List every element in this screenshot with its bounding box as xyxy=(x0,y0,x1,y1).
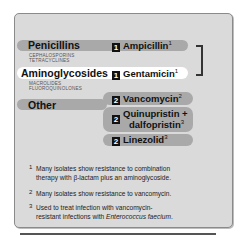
footnote-text: Many isolates show resistance to combina… xyxy=(36,165,171,174)
footnote-text: Used to treat infection with vancomycin- xyxy=(36,204,173,213)
class-label-other: Other xyxy=(28,99,56,111)
footnote-2: 2 Many isolates show resistance to vanco… xyxy=(36,190,171,199)
footnote-ref: 1 xyxy=(168,40,171,46)
footnote-ref: 3 xyxy=(164,134,167,140)
combination-bracket xyxy=(196,45,203,76)
footnote-text-part: resistant infections with xyxy=(36,213,106,220)
class-label-aminoglycosides: Aminoglycosides xyxy=(21,67,108,79)
drug-dalfopristin-line2: dalfopristin3 xyxy=(129,119,184,130)
rank-badge: 2 xyxy=(112,137,120,146)
drug-name: Linezolid xyxy=(123,134,164,145)
footnote-mark: 2 xyxy=(29,188,32,197)
divider xyxy=(20,233,216,235)
drug-name: Ampicillin xyxy=(123,40,168,51)
footnote-ref: 3 xyxy=(181,119,184,125)
footnote-3: 3 Used to treat infection with vancomyci… xyxy=(36,204,173,221)
drug-ampicillin: 1Ampicillin1 xyxy=(112,40,172,52)
footnote-text: resistant infections with Enterococcus f… xyxy=(36,213,173,222)
drug-name: Vancomycin xyxy=(123,93,178,104)
drug-gentamicin: 1Gentamicin1 xyxy=(112,68,178,80)
rank-badge: 2 xyxy=(112,96,120,105)
footnote-ref: 2 xyxy=(178,93,181,99)
footnote-text: therapy with β-lactam plus an aminoglyco… xyxy=(36,174,171,183)
footnote-mark: 1 xyxy=(29,163,32,172)
drug-name: dalfopristin xyxy=(129,119,181,130)
footnote-mark: 3 xyxy=(29,202,32,211)
class-label-penicillins: Penicillins xyxy=(28,39,80,51)
footnote-text-part: . xyxy=(171,213,173,220)
organism-name: Enterococcus faecium xyxy=(106,213,171,220)
rank-badge: 1 xyxy=(112,71,120,80)
footnote-1: 1 Many isolates show resistance to combi… xyxy=(36,165,171,182)
rank-badge: 2 xyxy=(112,115,120,124)
related-class: TETRACYCLINES xyxy=(29,58,70,63)
drug-name: Gentamicin xyxy=(123,68,175,79)
related-class: FLUOROQUINOLONES xyxy=(29,86,82,91)
footnote-text: Many isolates show resistance to vancomy… xyxy=(36,190,171,199)
drug-quinupristin-line1: Quinupristin + xyxy=(123,108,188,119)
drug-linezolid: 2Linezolid3 xyxy=(112,134,168,146)
footnote-ref: 1 xyxy=(175,68,178,74)
rank-badge: 1 xyxy=(112,43,120,52)
drug-vancomycin: 2Vancomycin2 xyxy=(112,93,182,105)
